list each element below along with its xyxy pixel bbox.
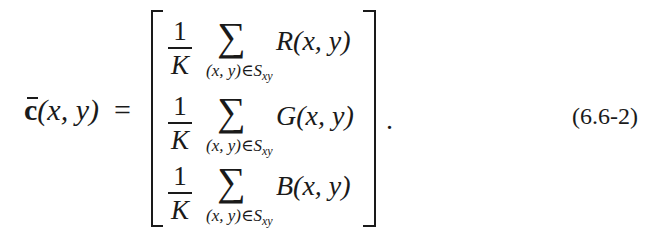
fraction-bar	[168, 122, 192, 124]
fraction-one-over-k: 1 K	[167, 92, 193, 156]
subscript-index: xy	[262, 144, 273, 158]
summation-subscript: (x, y)∈Sxy	[206, 136, 273, 157]
fraction-numerator: 1	[167, 17, 193, 45]
equation-number: (6.6-2)	[572, 101, 638, 131]
function-term: G(x, y)	[276, 100, 354, 132]
fraction-one-over-k: 1 K	[167, 17, 193, 81]
vector-row-blue: 1 K ∑ (x, y)∈Sxy B(x, y)	[165, 158, 365, 230]
lhs-args: (x, y)	[37, 93, 99, 126]
function-term: R(x, y)	[276, 25, 351, 57]
equation-terminator: .	[386, 104, 393, 136]
fraction-denominator: K	[167, 51, 193, 81]
function-name: R	[276, 25, 293, 56]
equals-sign: =	[114, 93, 131, 126]
summation-icon: ∑	[217, 158, 246, 206]
function-args: (x, y)	[293, 170, 351, 201]
function-term: B(x, y)	[276, 170, 351, 202]
summation-icon: ∑	[217, 88, 246, 136]
summation-subscript: (x, y)∈Sxy	[206, 61, 273, 82]
fraction-denominator: K	[167, 196, 193, 226]
fraction-bar	[168, 192, 192, 194]
equation-lhs: c(x, y) =	[24, 92, 131, 128]
fraction-one-over-k: 1 K	[167, 162, 193, 226]
subscript-set: (x, y)∈S	[206, 206, 262, 225]
summation-icon: ∑	[217, 13, 246, 61]
function-name: G	[276, 100, 296, 131]
subscript-set: (x, y)∈S	[206, 61, 262, 80]
function-args: (x, y)	[293, 25, 351, 56]
c-bar-symbol: c	[24, 93, 37, 126]
subscript-index: xy	[262, 214, 273, 228]
vector-row-green: 1 K ∑ (x, y)∈Sxy G(x, y)	[165, 88, 365, 160]
summation-subscript: (x, y)∈Sxy	[206, 206, 273, 227]
vector-row-red: 1 K ∑ (x, y)∈Sxy R(x, y)	[165, 13, 365, 85]
subscript-index: xy	[262, 69, 273, 83]
left-bracket	[151, 10, 163, 227]
subscript-set: (x, y)∈S	[206, 136, 262, 155]
fraction-numerator: 1	[167, 92, 193, 120]
function-name: B	[276, 170, 293, 201]
fraction-denominator: K	[167, 126, 193, 156]
overbar-accent	[27, 97, 38, 99]
fraction-numerator: 1	[167, 162, 193, 190]
fraction-bar	[168, 47, 192, 49]
function-args: (x, y)	[296, 100, 354, 131]
